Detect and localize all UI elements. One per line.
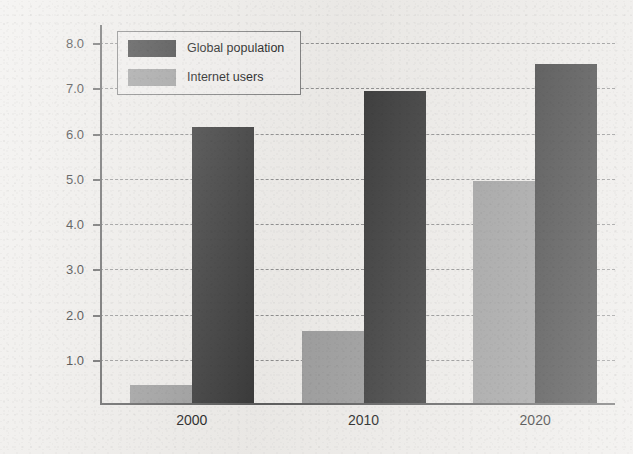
y-axis-tick-label: 3.0 [66, 262, 84, 277]
legend-label-internet-users: Internet users [187, 70, 263, 84]
y-axis-tick-label: 1.0 [66, 352, 84, 367]
legend-entry-global-population: Global population [128, 39, 284, 57]
y-axis-tick-labels: 1.02.03.04.05.06.07.08.0 [0, 25, 92, 405]
x-axis-tick-label: 2010 [348, 412, 379, 428]
bar-2010-global-population [364, 91, 426, 403]
bar-chart: Number of people (billions) 1.02.03.04.0… [0, 0, 633, 454]
bar-2020-global-population [535, 64, 597, 403]
x-axis-tick-label: 2000 [176, 412, 207, 428]
y-axis-tick-label: 8.0 [66, 36, 84, 51]
bar-2000-internet-users [130, 385, 192, 403]
bar-2000-global-population [192, 127, 254, 403]
y-axis-tick-label: 5.0 [66, 171, 84, 186]
y-axis-tick-label: 6.0 [66, 126, 84, 141]
y-axis-tick-label: 7.0 [66, 81, 84, 96]
y-axis-tick-label: 2.0 [66, 307, 84, 322]
legend-swatch-global-population [128, 40, 176, 57]
x-axis-tick-labels: 200020102020 [100, 412, 615, 438]
legend-entry-internet-users: Internet users [128, 68, 263, 86]
legend-swatch-internet-users [128, 69, 176, 86]
legend-label-global-population: Global population [187, 41, 284, 55]
y-axis-tick-label: 4.0 [66, 217, 84, 232]
chart-legend: Global population Internet users [117, 31, 301, 95]
bar-2020-internet-users [473, 181, 535, 403]
x-axis-line [100, 403, 615, 405]
y-axis-line [100, 25, 102, 405]
bar-2010-internet-users [302, 331, 364, 403]
x-axis-tick-label: 2020 [520, 412, 551, 428]
